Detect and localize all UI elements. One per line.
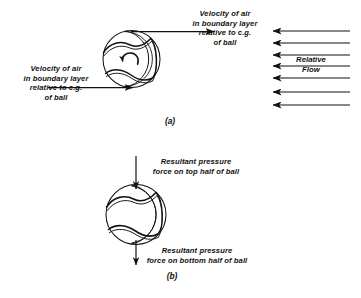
relative-flow-label-line2: Flow	[288, 65, 334, 75]
relative-flow-label-line1: Relative	[288, 55, 334, 65]
panel-b-bottom-force-label: Resultant pressure force on bottom half …	[137, 246, 257, 265]
panel-a-ball	[103, 31, 160, 88]
figure-root: Velocity of air in boundary layer relati…	[0, 0, 361, 298]
panel-b-top-force-label: Resultant pressure force on top half of …	[141, 157, 251, 176]
spin-direction-arrow	[122, 53, 138, 64]
panel-a-top-velocity-label: Velocity of air in boundary layer relati…	[178, 9, 272, 47]
panel-b-label: (b)	[152, 271, 192, 281]
panel-a-label: (a)	[150, 116, 190, 126]
panel-b-ball	[106, 185, 166, 245]
panel-a-bottom-velocity-label: Velocity of air in boundary layer relati…	[8, 64, 104, 102]
